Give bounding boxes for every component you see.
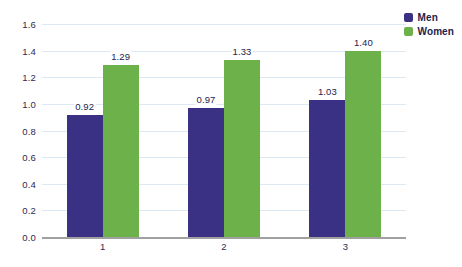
bar-value-label: 0.97 bbox=[196, 94, 217, 105]
bar-chart: 0.00.20.40.60.81.01.21.41.6 0.921.290.97… bbox=[0, 0, 462, 267]
x-axis-tick-label: 1 bbox=[100, 241, 105, 252]
y-axis-tick-label: 1.0 bbox=[22, 98, 36, 109]
legend-swatch-icon bbox=[404, 27, 413, 36]
legend-swatch-icon bbox=[404, 13, 413, 22]
y-axis-tick-label: 1.4 bbox=[22, 45, 36, 56]
bar-group: 0.971.33 bbox=[188, 24, 260, 237]
y-axis-tick-label: 0.0 bbox=[22, 232, 36, 243]
y-axis-tick-label: 1.2 bbox=[22, 72, 36, 83]
legend-label: Women bbox=[418, 26, 454, 37]
bar-value-label: 1.33 bbox=[232, 46, 253, 57]
legend-item-women[interactable]: Women bbox=[404, 26, 454, 37]
bar-women-3[interactable]: 1.40 bbox=[345, 51, 381, 237]
legend: MenWomen bbox=[404, 12, 454, 37]
bar-men-1[interactable]: 0.92 bbox=[67, 115, 103, 237]
legend-label: Men bbox=[418, 12, 438, 23]
bar-group: 0.921.29 bbox=[67, 24, 139, 237]
y-axis-tick-label: 0.4 bbox=[22, 178, 36, 189]
bar-value-label: 0.92 bbox=[74, 101, 95, 112]
x-axis-tick-label: 2 bbox=[221, 241, 226, 252]
bar-value-label: 1.40 bbox=[353, 37, 374, 48]
bar-group: 1.031.40 bbox=[309, 24, 381, 237]
x-axis-tick-label: 3 bbox=[343, 241, 348, 252]
bar-men-3[interactable]: 1.03 bbox=[309, 100, 345, 237]
bar-women-2[interactable]: 1.33 bbox=[224, 60, 260, 237]
plot-area: 0.921.290.971.331.031.40 bbox=[42, 24, 406, 237]
y-axis-tick-label: 1.6 bbox=[22, 19, 36, 30]
x-axis-line bbox=[42, 237, 406, 239]
y-axis-tick-label: 0.2 bbox=[22, 205, 36, 216]
y-axis-tick-label: 0.8 bbox=[22, 125, 36, 136]
bar-value-label: 1.29 bbox=[110, 51, 131, 62]
y-axis: 0.00.20.40.60.81.01.21.41.6 bbox=[0, 24, 36, 237]
bar-value-label: 1.03 bbox=[317, 86, 338, 97]
bar-women-1[interactable]: 1.29 bbox=[103, 65, 139, 237]
y-axis-tick-label: 0.6 bbox=[22, 152, 36, 163]
bar-men-2[interactable]: 0.97 bbox=[188, 108, 224, 237]
legend-item-men[interactable]: Men bbox=[404, 12, 454, 23]
